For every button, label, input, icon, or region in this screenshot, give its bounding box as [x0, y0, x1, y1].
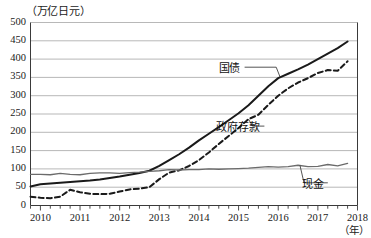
leader-line [245, 67, 281, 77]
x-tick-label: 2010 [20, 212, 60, 223]
y-tick-label: 450 [0, 34, 26, 45]
chart-plot [0, 0, 371, 238]
y-tick-label: 500 [0, 16, 26, 27]
y-tick-label: 250 [0, 107, 26, 118]
y-tick-label: 350 [0, 70, 26, 81]
x-tick-label: 2015 [219, 212, 259, 223]
x-tick-label: 2018 [338, 212, 371, 223]
x-tick-label: 2016 [258, 212, 298, 223]
series-annotation-genkin: 现金 [302, 175, 324, 191]
x-axis-minor-ticks [31, 206, 358, 211]
y-tick-label: 200 [0, 125, 26, 136]
y-tick-label: 100 [0, 162, 26, 173]
y-tick-label: 300 [0, 89, 26, 100]
y-tick-label: 400 [0, 52, 26, 63]
series-annotation-kokusai: 国债 [219, 59, 241, 75]
y-tick-label: 50 [0, 180, 26, 191]
x-tick-label: 2013 [139, 212, 179, 223]
x-tick-label: 2012 [100, 212, 140, 223]
x-tick-label: 2017 [298, 212, 338, 223]
series-line [31, 61, 348, 198]
x-tick-label: 2011 [60, 212, 100, 223]
y-tick-label: 0 [0, 199, 26, 210]
x-tick-label: 2014 [179, 212, 219, 223]
y-tick-label: 150 [0, 144, 26, 155]
chart-container: （万亿日元） （年） 05010015020025030035040045050… [0, 0, 371, 238]
series-annotation-seifu-yokin: 政府存款 [216, 118, 259, 134]
series-lines [31, 42, 348, 199]
